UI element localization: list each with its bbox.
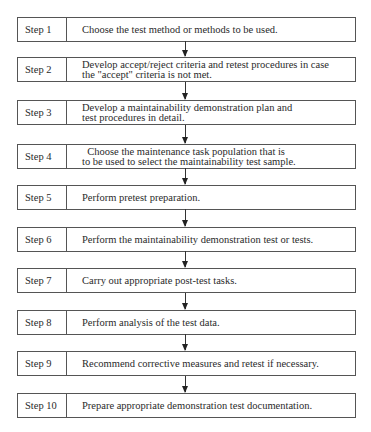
step-box-7: Step 7 Carry out appropriate post-test t…	[17, 268, 356, 293]
down-arrow-icon	[185, 125, 186, 143]
step-text-line: Choose the test method or methods to be …	[82, 25, 351, 35]
step-text-line: Carry out appropriate post-test tasks.	[82, 276, 351, 286]
step-label: Step 6	[18, 228, 67, 251]
down-arrow-icon	[185, 376, 186, 392]
step-box-5: Step 5 Perform pretest preparation.	[17, 185, 356, 210]
step-label: Step 4	[18, 145, 67, 168]
step-description: Perform pretest preparation.	[82, 186, 351, 209]
step-description: Choose the maintenance task population t…	[82, 145, 351, 168]
step-text-line: Recommend corrective measures and retest…	[82, 359, 351, 369]
step-description: Choose the test method or methods to be …	[82, 18, 351, 41]
down-arrow-icon	[185, 82, 186, 99]
down-arrow-icon	[185, 334, 186, 350]
step-description: Carry out appropriate post-test tasks.	[82, 269, 351, 292]
down-arrow-icon	[185, 251, 186, 267]
step-box-9: Step 9 Recommend corrective measures and…	[17, 351, 356, 376]
step-label: Step 8	[18, 311, 67, 334]
down-arrow-icon	[185, 293, 186, 309]
step-text-line: the "accept" criteria is not met.	[82, 70, 351, 80]
step-description: Perform the maintainability demonstratio…	[82, 228, 351, 251]
step-label: Step 9	[18, 352, 67, 375]
down-arrow-icon	[185, 209, 186, 226]
step-label: Step 2	[18, 58, 67, 81]
step-text-line: Perform pretest preparation.	[82, 193, 351, 203]
step-box-3: Step 3 Develop a maintainability demonst…	[17, 100, 356, 125]
step-label: Step 5	[18, 186, 67, 209]
down-arrow-icon	[185, 41, 186, 56]
step-description: Perform analysis of the test data.	[82, 311, 351, 334]
step-box-4: Step 4 Choose the maintenance task popul…	[17, 144, 356, 169]
step-description: Develop accept/reject criteria and retes…	[82, 58, 351, 81]
step-description: Recommend corrective measures and retest…	[82, 352, 351, 375]
step-label: Step 10	[18, 394, 67, 417]
step-text-line: Develop accept/reject criteria and retes…	[82, 60, 351, 70]
step-text-line: Prepare appropriate demonstration test d…	[82, 401, 351, 411]
step-box-6: Step 6 Perform the maintainability demon…	[17, 227, 356, 252]
step-text-line: Perform analysis of the test data.	[82, 318, 351, 328]
step-box-2: Step 2 Develop accept/reject criteria an…	[17, 57, 356, 82]
step-description: Prepare appropriate demonstration test d…	[82, 394, 351, 417]
step-text-line: test procedures in detail.	[82, 113, 351, 123]
step-text-line: to be used to select the maintainability…	[82, 157, 351, 167]
step-box-8: Step 8 Perform analysis of the test data…	[17, 310, 356, 335]
step-text-line: Choose the maintenance task population t…	[82, 147, 351, 157]
step-text-line: Develop a maintainability demonstration …	[82, 103, 351, 113]
down-arrow-icon	[185, 168, 186, 184]
step-label: Step 3	[18, 101, 67, 124]
step-label: Step 7	[18, 269, 67, 292]
step-box-10: Step 10 Prepare appropriate demonstratio…	[17, 393, 356, 418]
step-text-line: Perform the maintainability demonstratio…	[82, 235, 351, 245]
step-description: Develop a maintainability demonstration …	[82, 101, 351, 124]
step-label: Step 1	[18, 18, 67, 41]
step-box-1: Step 1 Choose the test method or methods…	[17, 17, 356, 42]
